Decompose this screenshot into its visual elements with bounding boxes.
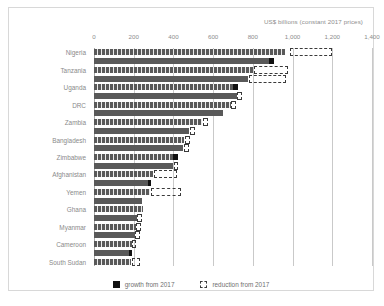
bar-segment-base — [94, 154, 173, 160]
bar-segment-base — [94, 189, 150, 195]
category-label: Tanzania — [60, 66, 86, 73]
bar-row — [94, 76, 372, 82]
axis-title: US$ billions (constant 2017 prices) — [264, 18, 363, 25]
bar-segment-growth — [173, 154, 178, 160]
bar-row — [94, 206, 372, 212]
x-tick-label: 1,200 — [325, 33, 340, 40]
bar-row — [94, 259, 372, 265]
legend-item-growth: growth from 2017 — [113, 281, 175, 288]
bar-segment-base — [94, 241, 132, 247]
bar-row — [94, 119, 372, 125]
bar-segment-reduction — [249, 75, 286, 83]
bar-segment-base — [94, 145, 183, 151]
category-label: DRC — [72, 101, 86, 108]
bar-segment-reduction — [203, 118, 208, 126]
bar-segment-base — [94, 67, 253, 73]
bar-segment-base — [94, 84, 233, 90]
category-label: Yemen — [66, 188, 86, 195]
bar-segment-base — [94, 128, 189, 134]
bar-segment-base — [94, 259, 131, 265]
bar-segment-growth — [269, 58, 274, 64]
bar-row — [94, 154, 372, 160]
bar-segment-base — [94, 119, 202, 125]
bar-segment-base — [94, 171, 153, 177]
x-tick-label: 600 — [208, 33, 218, 40]
bar-segment-base — [94, 232, 135, 238]
bar-row — [94, 232, 372, 238]
bar-segment-base — [94, 206, 143, 212]
bar-segment-reduction — [184, 144, 190, 152]
x-tick-label: 800 — [248, 33, 258, 40]
bar-row — [94, 163, 372, 169]
bar-segment-base — [94, 110, 223, 116]
bar-row — [94, 250, 372, 256]
bar-row — [94, 58, 372, 64]
gridline — [372, 48, 373, 266]
category-label: Bangladesh — [52, 136, 86, 143]
category-label: Cameroon — [56, 241, 86, 248]
bar-segment-reduction — [185, 136, 190, 144]
bar-row — [94, 137, 372, 143]
bar-segment-growth — [233, 84, 238, 90]
chart-legend: growth from 2017 reduction from 2017 — [9, 276, 373, 292]
bar-row — [94, 93, 372, 99]
x-tick-label: 1,400 — [364, 33, 379, 40]
bar-segment-reduction — [136, 223, 141, 231]
bar-row — [94, 224, 372, 230]
bar-segment-base — [94, 215, 137, 221]
bar-row — [94, 198, 372, 204]
bar-segment-base — [94, 93, 237, 99]
x-tick-label: 400 — [168, 33, 178, 40]
bar-segment-base — [94, 198, 142, 204]
bar-row — [94, 215, 372, 221]
category-label: Zimbabwe — [57, 154, 86, 161]
bar-row — [94, 49, 372, 55]
bar-segment-reduction — [231, 101, 236, 109]
bar-row — [94, 84, 372, 90]
bar-segment-reduction — [151, 188, 182, 196]
bar-segment-reduction — [132, 258, 140, 266]
bar-segment-base — [94, 49, 285, 55]
category-label: Afghanistan — [52, 171, 86, 178]
bar-segment-reduction — [237, 92, 242, 100]
bar-segment-base — [94, 102, 231, 108]
x-tick-label: 0 — [92, 33, 95, 40]
bar-row — [94, 145, 372, 151]
category-label: Zambia — [65, 119, 86, 126]
bar-segment-reduction — [135, 231, 140, 239]
bar-row — [94, 67, 372, 73]
bar-row — [94, 189, 372, 195]
x-tick-label: 200 — [129, 33, 139, 40]
bar-row — [94, 102, 372, 108]
x-tick-label: 1,000 — [285, 33, 300, 40]
category-axis-labels: NigeriaTanzaniaUgandaDRCZambiaBangladesh… — [19, 48, 90, 266]
bar-segment-reduction — [154, 170, 178, 178]
bar-row — [94, 110, 372, 116]
bar-row — [94, 241, 372, 247]
category-label: South Sudan — [49, 258, 86, 265]
bar-row — [94, 180, 372, 186]
bar-segment-base — [94, 224, 136, 230]
bar-segment-reduction — [174, 162, 179, 170]
bar-segment-base — [94, 137, 184, 143]
bar-segment-growth — [129, 250, 132, 256]
category-label: Nigeria — [66, 49, 86, 56]
legend-label-reduction: reduction from 2017 — [212, 281, 269, 288]
dashed-square-icon — [200, 281, 207, 288]
bar-segment-base — [94, 180, 148, 186]
chart-frame: US$ billions (constant 2017 prices) 0200… — [8, 7, 374, 291]
bar-segment-reduction — [290, 48, 333, 56]
bar-segment-reduction — [132, 240, 136, 248]
plot-area — [94, 48, 372, 266]
bar-row — [94, 128, 372, 134]
bar-segment-reduction — [190, 127, 195, 135]
x-axis-tick-labels: 02004006008001,0001,2001,400 — [94, 33, 372, 43]
legend-item-reduction: reduction from 2017 — [200, 281, 269, 288]
bar-segment-base — [94, 163, 173, 169]
category-label: Uganda — [64, 84, 86, 91]
bar-row — [94, 171, 372, 177]
bar-segment-reduction — [254, 66, 288, 74]
category-label: Ghana — [67, 206, 86, 213]
bar-segment-base — [94, 250, 129, 256]
category-label: Myanmar — [59, 223, 86, 230]
